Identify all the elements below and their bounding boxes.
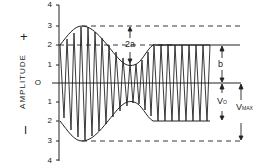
b-label: b (218, 60, 223, 69)
lower-envelope (60, 102, 210, 141)
tick-label-neg1: 1 (42, 98, 52, 106)
tick-label-4: 4 (42, 1, 52, 9)
y-axis-label: AMPLITUDE (18, 52, 27, 112)
tick-label-1: 1 (42, 61, 52, 69)
tick-label-2: 2 (42, 41, 52, 49)
two-a-label: 2a (125, 40, 135, 49)
tick-label-0: O (31, 79, 41, 87)
v0-label: VO (217, 97, 227, 107)
tick-label-3: 3 (42, 22, 52, 30)
amplitude-diagram: 4 3 2 1 O 1 2 3 4 AMPLITUDE + I 2a b VO … (0, 0, 262, 166)
vmax-label: VMAX (236, 103, 253, 113)
tick-label-neg4: 4 (42, 157, 52, 165)
negative-sign: I (24, 124, 27, 137)
positive-sign: + (20, 30, 28, 43)
tick-label-neg3: 3 (42, 137, 52, 145)
tick-label-neg2: 2 (42, 117, 52, 125)
